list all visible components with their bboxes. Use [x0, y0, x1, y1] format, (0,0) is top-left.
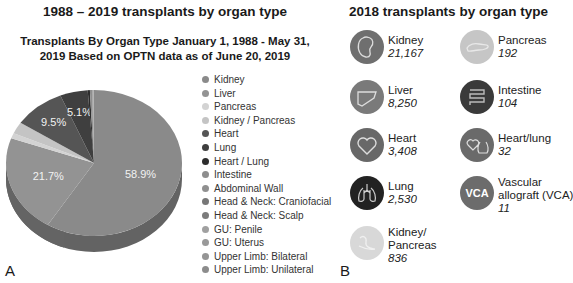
legend-swatch-icon — [202, 171, 209, 178]
kidney-icon — [350, 30, 384, 64]
organ-count: 104 — [498, 97, 541, 110]
pie-data-label: 9.5% — [41, 116, 66, 128]
legend-label: Abdominal Wall — [214, 183, 283, 194]
legend-swatch-icon — [202, 212, 209, 219]
legend-swatch-icon — [202, 130, 209, 137]
legend-swatch-icon — [202, 226, 209, 233]
legend-item: GU: Uterus — [202, 236, 264, 250]
organ-name: allograft (VCA) — [498, 189, 573, 202]
legend-label: Liver — [214, 88, 236, 99]
organ-label: Pancreas192 — [498, 34, 547, 60]
heart-lung-icon — [460, 128, 494, 162]
legend-label: Upper Limb: Unilateral — [214, 264, 314, 275]
legend-swatch-icon — [202, 117, 209, 124]
pie-data-label: 21.7% — [33, 170, 64, 182]
legend-swatch-icon — [202, 239, 209, 246]
chart-subtitle: Transplants By Organ Type January 1, 198… — [0, 34, 330, 64]
organ-count: 8,250 — [388, 97, 417, 110]
pie-data-label: 5.1% — [67, 106, 92, 118]
legend-swatch-icon — [202, 76, 209, 83]
panel-b-title: 2018 transplants by organ type — [340, 4, 557, 19]
legend-item: Head & Neck: Scalp — [202, 209, 304, 223]
legend-item: Upper Limb: Unilateral — [202, 263, 314, 277]
organ-name: Kidney/ — [388, 226, 437, 239]
legend-item: Intestine — [202, 168, 252, 182]
legend-item: Head & Neck: Craniofacial — [202, 195, 331, 209]
legend-item: GU: Penile — [202, 223, 262, 237]
organ-count: 2,530 — [388, 193, 417, 206]
organ-label: Kidney21,167 — [388, 34, 423, 60]
pie-chart: 58.9%21.7%9.5%5.1% — [0, 85, 200, 270]
legend-label: Upper Limb: Bilateral — [214, 251, 307, 262]
kidney-pancreas-icon — [350, 226, 384, 260]
legend-label: Lung — [214, 142, 236, 153]
legend-swatch-icon — [202, 90, 209, 97]
legend-item: Liver — [202, 87, 236, 101]
legend-swatch-icon — [202, 198, 209, 205]
legend-label: Kidney — [214, 74, 245, 85]
legend-item: Lung — [202, 141, 236, 155]
organ-label: Heart/lung32 — [498, 132, 551, 158]
legend-item: Heart — [202, 127, 238, 141]
organ-count: 192 — [498, 47, 547, 60]
organ-name: Lung — [388, 180, 417, 193]
subtitle-line-1: Transplants By Organ Type January 1, 198… — [0, 34, 330, 49]
organ-name: Heart/lung — [498, 132, 551, 145]
legend-item: Upper Limb: Bilateral — [202, 250, 307, 264]
organ-label: Kidney/Pancreas836 — [388, 226, 437, 265]
lungs-icon — [350, 176, 384, 210]
organ-count: 32 — [498, 145, 551, 158]
pie-data-label: 58.9% — [125, 168, 156, 180]
organ-name: Kidney — [388, 34, 423, 47]
organ-label: Vascularallograft (VCA)11 — [498, 176, 573, 215]
legend-label: Heart / Lung — [214, 156, 269, 167]
legend-label: Kidney / Pancreas — [214, 115, 295, 126]
subtitle-line-2: 2019 Based on OPTN data as of June 20, 2… — [0, 49, 330, 64]
legend-item: Kidney — [202, 73, 245, 87]
legend-label: Heart — [214, 128, 238, 139]
legend-swatch-icon — [202, 185, 209, 192]
organ-name: Heart — [388, 132, 417, 145]
organ-name: Liver — [388, 84, 417, 97]
legend-label: GU: Uterus — [214, 237, 264, 248]
panel-a-title: 1988 – 2019 transplants by organ type — [0, 4, 330, 19]
legend-swatch-icon — [202, 253, 209, 260]
organ-count: 836 — [388, 252, 437, 265]
vca-icon: VCA — [460, 176, 494, 210]
intestine-icon — [460, 80, 494, 114]
legend-item: Pancreas — [202, 100, 256, 114]
panel-b-label: B — [340, 262, 350, 279]
panel-a-label: A — [5, 262, 15, 279]
organ-label: Heart3,408 — [388, 132, 417, 158]
organ-name: Vascular — [498, 176, 573, 189]
organ-name: Intestine — [498, 84, 541, 97]
organ-name: Pancreas — [388, 239, 437, 252]
legend-label: Intestine — [214, 169, 252, 180]
liver-icon — [350, 80, 384, 114]
legend-swatch-icon — [202, 266, 209, 273]
legend-label: Head & Neck: Craniofacial — [214, 196, 331, 207]
organ-count: 21,167 — [388, 47, 423, 60]
legend-item: Heart / Lung — [202, 155, 269, 169]
legend-item: Abdominal Wall — [202, 182, 283, 196]
legend-label: Head & Neck: Scalp — [214, 210, 304, 221]
organ-label: Liver8,250 — [388, 84, 417, 110]
pancreas-icon — [460, 30, 494, 64]
legend-label: GU: Penile — [214, 224, 262, 235]
organ-count: 11 — [498, 202, 573, 215]
legend-swatch-icon — [202, 144, 209, 151]
organ-name: Pancreas — [498, 34, 547, 47]
organ-count: 3,408 — [388, 145, 417, 158]
heart-icon — [350, 128, 384, 162]
organ-label: Intestine104 — [498, 84, 541, 110]
legend-label: Pancreas — [214, 101, 256, 112]
legend-item: Kidney / Pancreas — [202, 114, 295, 128]
legend-swatch-icon — [202, 158, 209, 165]
legend-swatch-icon — [202, 103, 209, 110]
organ-label: Lung2,530 — [388, 180, 417, 206]
